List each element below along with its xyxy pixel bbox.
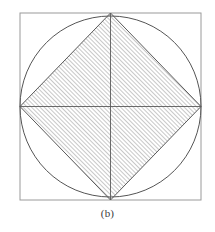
figure-caption: (b) — [0, 206, 215, 220]
figure-container: (b) — [0, 0, 215, 232]
geometry-figure — [0, 0, 215, 232]
